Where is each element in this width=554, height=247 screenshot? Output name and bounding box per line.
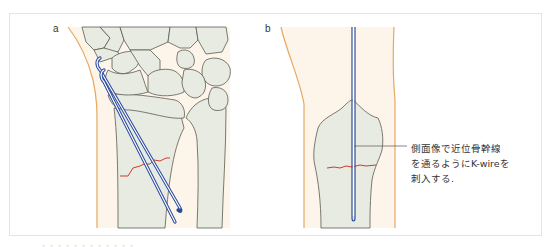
annotation-line-2: を通るようにK-wireを: [411, 156, 510, 171]
annotation-line-1: 側面像で近位骨幹線: [411, 141, 510, 156]
wrist-illustration: [0, 0, 554, 247]
annotation-line-3: 刺入する.: [411, 171, 510, 186]
panel-b-k-wire: [352, 27, 355, 221]
figure-caption: ・・・・・・・・・・・・: [40, 240, 136, 247]
annotation-text: 側面像で近位骨幹線 を通るようにK-wireを 刺入する.: [411, 141, 510, 186]
panel-a-drawing: [68, 27, 230, 228]
panel-b-drawing: [281, 27, 407, 228]
panel-label-a: a: [53, 24, 59, 34]
panel-label-b: b: [265, 24, 271, 34]
